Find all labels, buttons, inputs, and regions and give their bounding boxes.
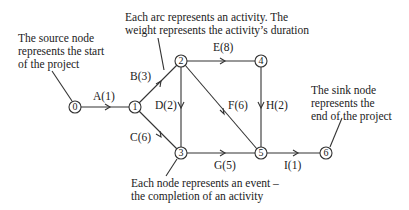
arc-label-f: F(6): [228, 99, 248, 112]
node-label-4: 4: [255, 55, 267, 67]
annotation-line: end of the project: [311, 110, 392, 123]
annotation-sink: The sink node represents the end of the …: [311, 84, 392, 123]
arc-label-c: C(6): [130, 131, 151, 144]
node-label-5: 5: [255, 147, 267, 159]
node-label-6: 6: [320, 147, 332, 159]
arc-label-h: H(2): [266, 99, 288, 112]
annotation-line: Each arc represents an activity. The: [125, 11, 309, 24]
annotation-line: represents the: [311, 97, 392, 110]
annotation-line: The source node: [18, 32, 104, 45]
node-label-1: 1: [129, 101, 141, 113]
leader-line-event: [166, 159, 177, 176]
annotation-line: of the project: [18, 58, 104, 71]
arrow-icon: [156, 131, 161, 137]
annotation-line: weight represents the activity’s duratio…: [125, 24, 309, 37]
leader-line-source: [52, 71, 72, 101]
annotation-line: The sink node: [311, 84, 392, 97]
node-label-3: 3: [175, 147, 187, 159]
annotation-arc: Each arc represents an activity. The wei…: [125, 11, 309, 37]
annotation-line: represents the start: [18, 45, 104, 58]
arc-label-g: G(5): [214, 159, 236, 172]
annotation-event: Each node represents an event – the comp…: [131, 177, 279, 203]
arc-label-e: E(8): [213, 41, 233, 54]
node-label-0: 0: [69, 101, 81, 113]
arc-label-a: A(1): [93, 90, 115, 103]
annotation-source: The source node represents the start of …: [18, 32, 104, 71]
leader-line-arc: [158, 38, 164, 70]
arc-label-d: D(2): [155, 99, 177, 112]
annotation-line: Each node represents an event –: [131, 177, 279, 190]
node-label-2: 2: [175, 55, 187, 67]
annotation-line: the completion of an activity: [131, 190, 279, 203]
arc-label-b: B(3): [130, 70, 151, 83]
arc-label-i: I(1): [284, 159, 301, 172]
